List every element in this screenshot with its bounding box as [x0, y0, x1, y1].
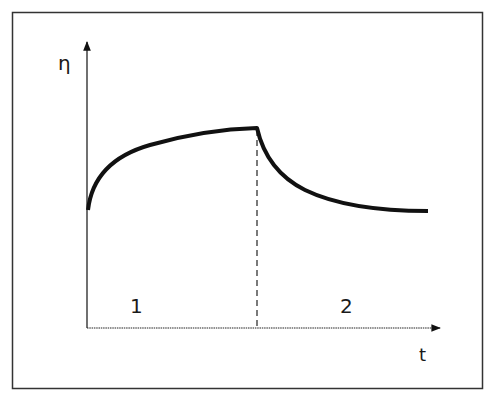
figure-frame	[13, 13, 483, 389]
viscosity-curve	[88, 128, 428, 211]
y-axis-label: η	[58, 51, 71, 75]
diagram-canvas: η 1 2 t	[0, 0, 492, 402]
region-2-label: 2	[340, 294, 353, 318]
region-1-label: 1	[130, 294, 143, 318]
x-axis-label: t	[419, 344, 426, 365]
